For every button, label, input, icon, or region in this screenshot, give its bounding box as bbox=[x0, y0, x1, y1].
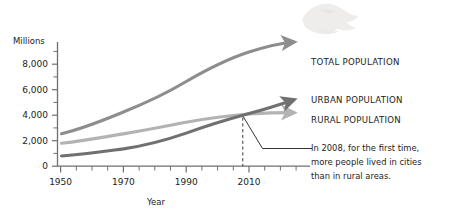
y-axis-title: Millions bbox=[13, 36, 45, 46]
annotation-line-1: In 2008, for the first time, bbox=[311, 143, 419, 153]
x-tick-label-1970: 1970 bbox=[112, 177, 135, 187]
series-line-rural-population bbox=[62, 113, 294, 144]
series-label-urban-population: URBAN POPULATION bbox=[311, 95, 403, 105]
annotation-line-3: than in rural areas. bbox=[311, 171, 391, 181]
y-tick-label-2000: 2,000 bbox=[22, 136, 48, 146]
population-line-chart: Millions 8,000 6,000 4,000 2,000 0 1950 … bbox=[0, 0, 450, 216]
series-label-rural-population: RURAL POPULATION bbox=[311, 115, 401, 125]
x-axis-title: Year bbox=[146, 197, 166, 207]
annotation-leader-line bbox=[243, 117, 312, 149]
series-line-urban-population bbox=[62, 100, 294, 156]
annotation-line-2: more people lived in cities bbox=[311, 157, 422, 167]
bird-watermark-icon bbox=[302, 4, 358, 34]
chart-figure: Millions 8,000 6,000 4,000 2,000 0 1950 … bbox=[0, 0, 450, 216]
y-tick-label-8000: 8,000 bbox=[22, 59, 48, 69]
x-tick-label-1990: 1990 bbox=[175, 177, 198, 187]
y-tick-label-0: 0 bbox=[42, 161, 48, 171]
series-label-total-population: TOTAL POPULATION bbox=[310, 57, 400, 67]
y-tick-label-4000: 4,000 bbox=[22, 110, 48, 120]
series-line-total-population bbox=[62, 42, 294, 134]
x-axis-ticks bbox=[61, 166, 297, 172]
y-axis-major-ticks bbox=[52, 64, 58, 166]
x-tick-label-2010: 2010 bbox=[238, 177, 261, 187]
y-tick-label-6000: 6,000 bbox=[22, 85, 48, 95]
x-tick-label-1950: 1950 bbox=[49, 177, 72, 187]
